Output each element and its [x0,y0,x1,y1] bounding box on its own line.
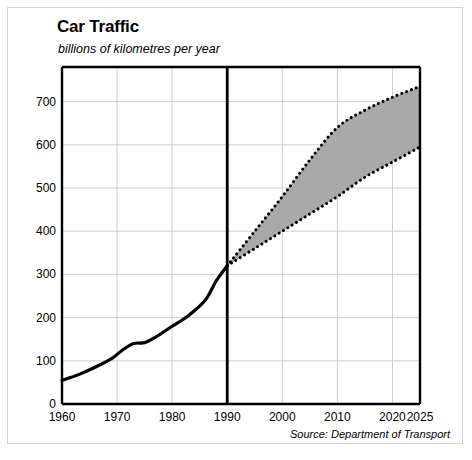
chart-figure: Car Traffic billions of kilometres per y… [0,0,472,460]
x-axis-tick-label: 2010 [307,410,367,424]
y-axis-tick-label: 0 [10,397,56,411]
x-axis-tick-label: 1990 [197,410,257,424]
x-axis-tick-label: 1970 [87,410,147,424]
y-axis-tick-label: 700 [10,95,56,109]
forecast-band [227,86,420,265]
y-axis-tick-label: 400 [10,224,56,238]
y-axis-tick-label: 300 [10,267,56,281]
y-axis-tick-label: 200 [10,311,56,325]
source-note: Source: Department of Transport [0,428,450,440]
x-axis-tick-label: 2025 [390,410,450,424]
chart-svg [0,0,472,460]
x-axis-tick-label: 2000 [252,410,312,424]
x-axis-tick-label: 1980 [142,410,202,424]
y-axis-tick-label: 600 [10,138,56,152]
plot-area [0,0,472,460]
x-axis-tick-label: 1960 [32,410,92,424]
y-axis-tick-label: 500 [10,181,56,195]
y-axis-tick-label: 100 [10,354,56,368]
